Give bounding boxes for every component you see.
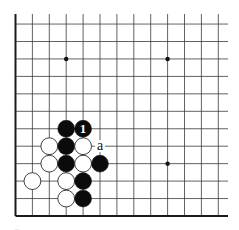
white-stone-icon bbox=[75, 138, 92, 155]
white-stone bbox=[24, 173, 41, 190]
black-stone-icon bbox=[58, 120, 75, 137]
white-stone-icon bbox=[41, 138, 58, 155]
star-point-icon bbox=[165, 161, 169, 165]
star-point-icon bbox=[165, 57, 169, 61]
go-board-diagram: 1 a bbox=[0, 0, 239, 230]
black-stone bbox=[58, 155, 75, 172]
white-stone bbox=[41, 138, 58, 155]
black-stone bbox=[58, 120, 75, 137]
black-stone-icon bbox=[75, 173, 92, 190]
black-stone bbox=[75, 173, 92, 190]
black-stone: 1 bbox=[75, 120, 92, 137]
board-grid bbox=[16, 14, 229, 216]
black-stone-icon bbox=[58, 138, 75, 155]
black-stone-icon bbox=[58, 155, 75, 172]
diagram-caption: ... bbox=[14, 224, 19, 230]
white-stone bbox=[75, 138, 92, 155]
white-stone bbox=[58, 190, 75, 207]
black-stone bbox=[75, 190, 92, 207]
stone-move-number: 1 bbox=[80, 121, 87, 136]
black-stone-icon bbox=[75, 190, 92, 207]
white-stone-icon bbox=[58, 190, 75, 207]
white-stone bbox=[75, 155, 92, 172]
black-stone bbox=[92, 155, 109, 172]
white-stone-icon bbox=[41, 155, 58, 172]
white-stone-icon bbox=[58, 173, 75, 190]
white-stone-icon bbox=[24, 173, 41, 190]
point-marker-label: a bbox=[97, 138, 104, 153]
white-stone bbox=[58, 173, 75, 190]
white-stone-icon bbox=[75, 155, 92, 172]
markers-layer: a bbox=[95, 138, 105, 153]
white-stone bbox=[41, 155, 58, 172]
star-point-icon bbox=[64, 57, 68, 61]
black-stone bbox=[58, 138, 75, 155]
black-stone-icon bbox=[92, 155, 109, 172]
